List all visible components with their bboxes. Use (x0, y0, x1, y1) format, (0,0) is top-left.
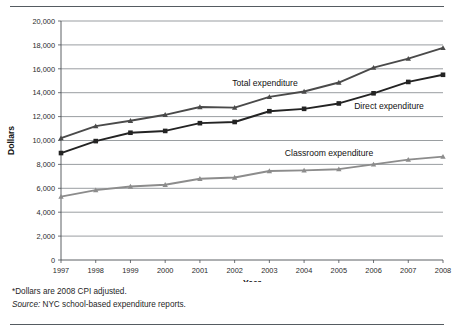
x-axis-tick-labels: 1997199819992000200120022003200420052006… (53, 266, 451, 275)
y-axis-title: Dollars (6, 126, 16, 155)
y-tick-label: 10,000 (32, 136, 55, 145)
series-data-point (59, 151, 64, 156)
y-axis-tick-labels: 02,0004,0006,0008,00010,00012,00014,0001… (32, 17, 55, 265)
series-annotations-group: Total expenditureDirect expenditureClass… (232, 78, 424, 158)
series-label: Direct expenditure (354, 101, 424, 111)
source-note: Source: NYC school-based expenditure rep… (12, 299, 442, 312)
top-divider-rule (10, 6, 444, 7)
bottom-divider-rule (10, 324, 444, 325)
x-axis-title: Year (243, 278, 262, 282)
x-tick-label: 2000 (157, 266, 173, 275)
series-data-point (441, 72, 446, 77)
x-tick-label: 1999 (122, 266, 138, 275)
series-data-point (163, 129, 168, 134)
x-tick-label: 2002 (226, 266, 242, 275)
footnote-cpi: *Dollars are 2008 CPI adjusted. (12, 286, 442, 299)
chart-plot-area: 02,0004,0006,0008,00010,00012,00014,0001… (0, 12, 453, 282)
y-tick-label: 16,000 (32, 65, 55, 74)
source-note-label: Source: (12, 300, 40, 309)
series-label: Classroom expenditure (285, 148, 374, 158)
y-tick-label: 0 (51, 256, 55, 265)
source-note-text: NYC school-based expenditure reports. (40, 300, 186, 309)
series-data-point (267, 109, 272, 114)
x-tick-label: 2004 (296, 266, 312, 275)
series-data-point (128, 130, 133, 135)
y-tick-label: 4,000 (37, 208, 56, 217)
y-tick-label: 14,000 (32, 88, 55, 97)
series-data-point (232, 120, 237, 125)
series-data-point (337, 101, 342, 106)
y-tick-label: 12,000 (32, 112, 55, 121)
series-data-point (406, 80, 411, 85)
axis-lines-group (61, 21, 443, 263)
x-tick-label: 2007 (400, 266, 416, 275)
x-tick-label: 2003 (261, 266, 277, 275)
y-tick-label: 6,000 (37, 184, 56, 193)
y-tick-label: 8,000 (37, 160, 56, 169)
x-tick-label: 2001 (192, 266, 208, 275)
figure-container: 02,0004,0006,0008,00010,00012,00014,0001… (0, 0, 453, 332)
y-tick-label: 2,000 (37, 232, 56, 241)
series-line (61, 157, 443, 197)
x-tick-label: 2005 (331, 266, 347, 275)
x-tick-label: 2008 (435, 266, 451, 275)
series-data-point (93, 139, 98, 144)
line-chart: 02,0004,0006,0008,00010,00012,00014,0001… (0, 12, 453, 282)
series-label: Total expenditure (232, 78, 298, 88)
series-data-point (371, 91, 376, 96)
x-tick-label: 1997 (53, 266, 69, 275)
figure-notes: *Dollars are 2008 CPI adjusted. Source: … (12, 286, 442, 311)
series-data-point (198, 121, 203, 126)
series-data-point (302, 107, 307, 112)
series-lines-group (61, 48, 443, 197)
y-tick-label: 20,000 (32, 17, 55, 26)
y-tick-label: 18,000 (32, 41, 55, 50)
x-tick-label: 2006 (365, 266, 381, 275)
x-tick-label: 1998 (88, 266, 104, 275)
gridlines-group (58, 21, 443, 260)
